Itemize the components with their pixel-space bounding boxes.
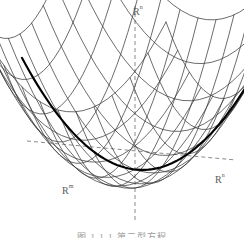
figure-container: Rn Rm Rn 图 1.1.1 第二型方程 xyxy=(0,0,244,238)
axis-label-sup: n xyxy=(222,172,225,178)
figure-caption: 图 1.1.1 第二型方程 xyxy=(0,230,244,238)
axis-label-sup: n xyxy=(140,4,143,10)
axis-label-rm-left: Rm xyxy=(62,181,73,197)
axis-label-rn-top: Rn xyxy=(133,2,143,18)
axis-label-rn-right: Rn xyxy=(215,170,225,186)
axis-label-base: R xyxy=(62,185,69,196)
axis-label-base: R xyxy=(215,174,222,185)
axis-label-base: R xyxy=(133,6,140,17)
paraboloid-wireframe-plot xyxy=(0,0,244,238)
axis-label-sup: m xyxy=(69,183,74,189)
